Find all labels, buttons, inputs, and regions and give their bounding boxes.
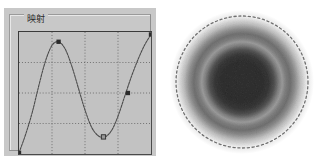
start-point[interactable] <box>19 151 21 154</box>
mid-point[interactable] <box>126 91 130 95</box>
trough-point[interactable] <box>101 135 105 139</box>
pattern-rings <box>170 10 314 154</box>
end-point[interactable] <box>149 32 151 36</box>
diffraction-pattern-panel <box>162 0 320 163</box>
mapping-plot-area[interactable] <box>18 31 152 155</box>
plot-gridlines <box>19 32 151 154</box>
plot-curve <box>19 34 151 152</box>
mapping-panel-title: 映射 <box>24 14 48 24</box>
peak-point[interactable] <box>56 40 60 44</box>
plot-curve-group <box>19 34 151 152</box>
mapping-plot-svg <box>19 32 151 154</box>
mapping-panel: 映射 <box>4 8 156 156</box>
diffraction-pattern-image <box>162 0 320 163</box>
